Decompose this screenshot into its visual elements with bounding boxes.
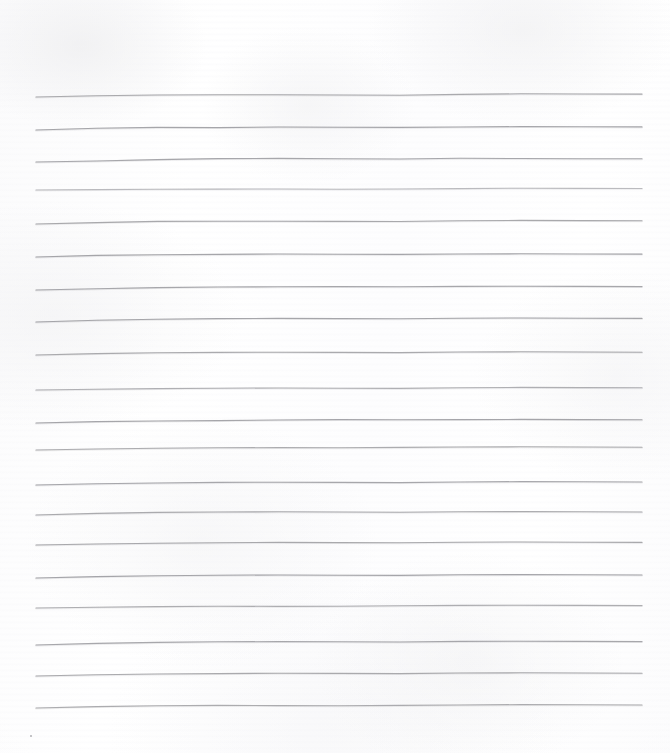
ruled-lines-svg — [0, 0, 670, 753]
dust-speck — [30, 735, 32, 737]
scanned-lined-paper-page — [0, 0, 670, 753]
ruled-lines-layer — [0, 0, 670, 753]
